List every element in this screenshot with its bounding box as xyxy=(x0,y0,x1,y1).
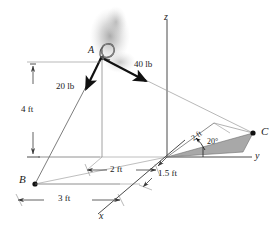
label-force-20lb: 20 lb xyxy=(56,82,74,91)
point-c-marker xyxy=(250,130,255,135)
diagram-canvas xyxy=(0,0,279,234)
label-dim-3ft: 3 ft xyxy=(58,194,70,203)
label-point-c: C xyxy=(261,126,268,137)
label-point-a: A xyxy=(88,45,94,55)
label-force-40lb: 40 lb xyxy=(134,60,152,69)
label-angle-20deg: 20° xyxy=(207,138,218,146)
label-point-b: B xyxy=(19,174,26,185)
dimension-4ft-line xyxy=(27,62,100,157)
force-diagram-figure: A B C z y x 20 lb 40 lb 4 ft 2 ft 3 ft 1… xyxy=(0,0,279,234)
dimension-2ft-y-line xyxy=(85,157,160,176)
label-dim-4ft: 4 ft xyxy=(21,105,33,114)
label-dim-15ft: 1.5 ft xyxy=(158,169,177,178)
label-axis-y: y xyxy=(255,151,259,161)
label-axis-x: x xyxy=(99,211,103,221)
ground-construction-lines xyxy=(35,157,167,184)
label-axis-z: z xyxy=(164,12,168,22)
label-dim-2ft-y: 2 ft xyxy=(110,165,122,174)
force-arrow-20lb xyxy=(86,58,101,89)
